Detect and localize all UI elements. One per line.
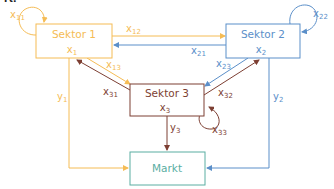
sektor1-title: Sektor 1 [52, 28, 96, 40]
node-sektor3: Sektor 3 x3 [130, 84, 204, 116]
label-x32: x32 [218, 87, 233, 100]
label-y1: y1 [57, 91, 67, 104]
label-x23: x23 [216, 58, 231, 71]
input-output-diagram: Sektor 1 x1 Sektor 2 x2 Sektor 3 x3 Mark… [0, 0, 334, 189]
node-markt: Markt [130, 152, 205, 185]
label-y2: y2 [273, 91, 283, 104]
sektor3-title: Sektor 3 [145, 87, 189, 99]
sektor2-title: Sektor 2 [241, 28, 285, 40]
label-x31: x31 [103, 86, 118, 99]
label-y3: y3 [170, 122, 180, 135]
edge-y1-line [69, 58, 128, 168]
label-x22: x22 [313, 8, 328, 21]
node-sektor2: Sektor 2 x2 [226, 24, 300, 58]
label-x12: x12 [126, 23, 141, 36]
edge-x32-line [204, 60, 259, 95]
markt-title: Markt [152, 162, 182, 174]
node-sektor1: Sektor 1 x1 [36, 24, 112, 58]
label-x13: x13 [106, 59, 121, 72]
label-x21: x21 [191, 45, 206, 58]
label-x33: x33 [212, 124, 227, 137]
